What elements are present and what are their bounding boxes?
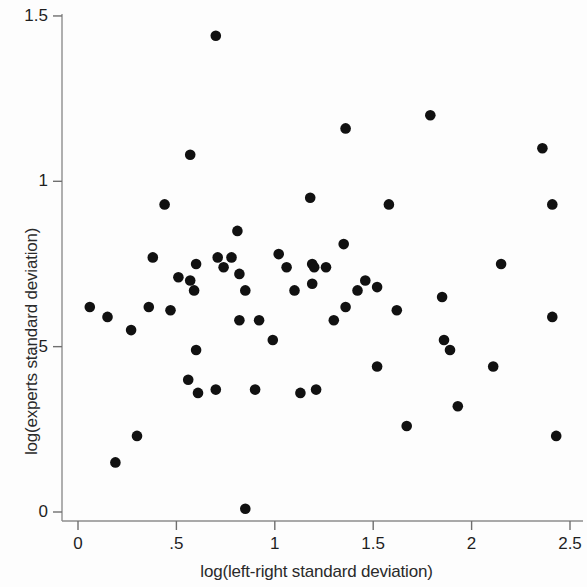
data-point (496, 259, 507, 270)
data-point (273, 249, 284, 260)
data-point (329, 315, 340, 326)
data-point (165, 305, 176, 316)
data-point (437, 292, 448, 303)
data-point (132, 431, 143, 442)
data-point (102, 312, 113, 323)
data-point (309, 262, 320, 273)
data-point (360, 275, 371, 286)
data-point (425, 110, 436, 121)
data-point (211, 384, 222, 395)
data-point (338, 239, 349, 250)
data-point (295, 388, 306, 399)
y-axis-label: log(experts standard deviation) (22, 228, 42, 455)
data-point (185, 275, 196, 286)
data-point (211, 31, 222, 42)
x-tick-label: 2 (467, 534, 476, 554)
data-point (305, 193, 316, 204)
data-point (281, 262, 292, 273)
data-point (191, 259, 202, 270)
data-point (144, 302, 155, 313)
data-point (212, 252, 223, 263)
plot-canvas (0, 0, 587, 587)
x-axis-label: log(left-right standard deviation) (0, 562, 587, 582)
x-tick-label: 2.5 (558, 534, 582, 554)
y-tick-label: 1.5 (0, 6, 48, 26)
data-point (547, 312, 558, 323)
data-point (321, 262, 332, 273)
x-tick-label: 0 (73, 534, 82, 554)
data-point (307, 279, 318, 290)
data-point (289, 285, 300, 296)
scatter-plot-figure: 0.511.522.5 0.511.5 log(left-right stand… (0, 0, 587, 587)
data-point (551, 431, 562, 442)
data-point (218, 262, 229, 273)
data-point (234, 315, 245, 326)
data-point (340, 123, 351, 134)
data-point (193, 388, 204, 399)
data-point (372, 361, 383, 372)
data-point (537, 143, 548, 154)
data-point (240, 285, 251, 296)
data-point (439, 335, 450, 346)
data-point (392, 305, 403, 316)
data-point (250, 384, 261, 395)
data-point (148, 252, 159, 263)
data-point (232, 226, 243, 237)
data-point (453, 401, 464, 412)
data-points (85, 31, 562, 515)
data-point (268, 335, 279, 346)
data-point (240, 503, 251, 514)
x-tick-label: 1 (270, 534, 279, 554)
data-point (183, 374, 194, 385)
data-point (384, 199, 395, 210)
data-point (488, 361, 499, 372)
y-tick-label: 1 (0, 171, 48, 191)
data-point (445, 345, 456, 356)
x-tick-label: .5 (169, 534, 183, 554)
x-axis-label-text: log(left-right standard deviation) (200, 562, 432, 582)
data-point (401, 421, 412, 432)
data-point (173, 272, 184, 283)
y-tick-label: 0 (0, 502, 48, 522)
data-point (85, 302, 96, 313)
data-point (110, 457, 121, 468)
data-point (311, 384, 322, 395)
data-point (547, 199, 558, 210)
data-point (126, 325, 137, 336)
data-point (352, 285, 363, 296)
tick-marks (53, 16, 570, 530)
data-point (340, 302, 351, 313)
data-point (159, 199, 170, 210)
data-point (254, 315, 265, 326)
data-point (372, 282, 383, 293)
plot-area: 0.511.522.5 0.511.5 (0, 0, 587, 587)
data-point (234, 269, 245, 280)
data-point (191, 345, 202, 356)
data-point (189, 285, 200, 296)
data-point (185, 150, 196, 161)
data-point (226, 252, 237, 263)
x-tick-label: 1.5 (361, 534, 385, 554)
